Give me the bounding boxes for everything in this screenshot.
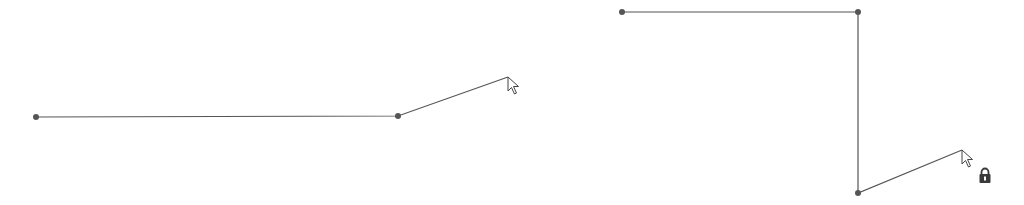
vertex-point[interactable] [855, 9, 861, 15]
arrow-cursor-icon [508, 77, 519, 94]
vertex-point[interactable] [619, 9, 625, 15]
right-polyline [619, 9, 962, 196]
lock-icon [980, 169, 991, 184]
drawing-canvas[interactable] [0, 0, 1024, 205]
arrow-cursor-icon [962, 150, 973, 167]
left-polyline [33, 77, 508, 120]
vertex-point[interactable] [395, 113, 401, 119]
vertex-point[interactable] [33, 114, 39, 120]
vertex-point[interactable] [855, 190, 861, 196]
